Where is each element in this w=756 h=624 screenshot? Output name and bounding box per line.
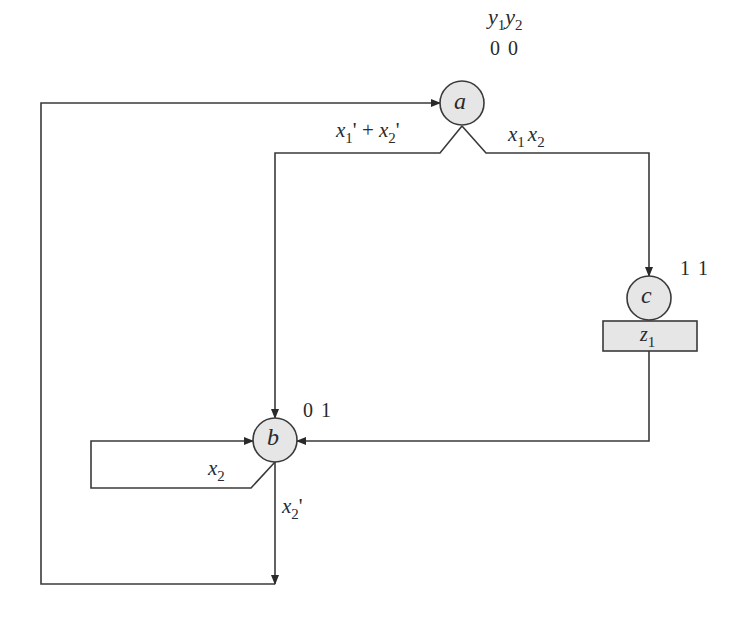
lbl-x2-sub: 2 [291,506,299,522]
edge-b-self-loop [91,441,275,488]
lbl-x2-sub: 2 [537,134,545,150]
edge-label-b-to-a: x2' [282,496,303,517]
lbl-x1: x [336,118,345,142]
edge-a-to-c [462,126,649,276]
lbl-plus: + [357,118,379,142]
edge-label-a-to-c: x1x2 [508,124,545,145]
edge-b-to-a-return [41,103,440,584]
node-b-label: b [267,425,279,449]
lbl-x1: x [508,122,517,146]
lbl-x2-sub: 2 [217,468,225,484]
node-b-code: 0 1 [303,400,331,420]
y2-var: y [505,4,515,29]
lbl-x2: x [282,494,291,518]
z1-sub: 1 [648,334,656,350]
lbl-x1-sub: 1 [345,130,353,146]
node-c-code: 1 1 [680,258,708,278]
lbl-x2-prime: ' [396,118,400,142]
diagram-graphics [0,0,756,624]
y1-var: y [488,4,498,29]
state-variables-header: y1y2 [488,6,523,28]
y1-sub: 1 [498,17,506,33]
lbl-x2-prime: ' [299,494,303,518]
lbl-x2: x [528,122,537,146]
z1-var: z [640,323,648,345]
y2-sub: 2 [515,17,523,33]
state-diagram: y1y2 a b c 0 0 0 1 1 1 z1 x1' + x2' x1x2… [0,0,756,624]
node-c-label: c [641,283,652,307]
lbl-x2-sub: 2 [388,130,396,146]
node-a-code: 0 0 [490,38,518,58]
edge-a-to-b [275,126,462,418]
output-z1-label: z1 [640,324,655,344]
edge-label-a-to-b: x1' + x2' [336,120,400,141]
edge-label-b-self-loop: x2 [208,458,225,479]
edge-c-to-b [297,351,649,441]
lbl-x1-sub: 1 [517,134,525,150]
lbl-x2: x [379,118,388,142]
lbl-x2: x [208,456,217,480]
node-a-label: a [454,89,466,113]
